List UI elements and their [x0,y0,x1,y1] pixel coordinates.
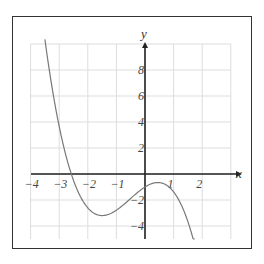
y-axis-label: y [139,26,147,41]
plot-area: x y −4−3−2−112−4−22468 [0,0,264,264]
axes: x y [31,26,242,239]
y-tick-label: 8 [138,63,144,77]
y-tick-label: 4 [138,115,144,129]
y-tick-label: 2 [138,141,144,155]
x-tick-label: −1 [110,177,124,191]
x-tick-label: −2 [82,177,96,191]
x-tick-label: 2 [196,177,202,191]
grid [31,44,231,239]
y-tick-label: −4 [130,219,144,233]
x-axis-label: x [235,166,242,181]
y-axis-arrow-icon [142,42,148,48]
x-tick-label: −3 [53,177,67,191]
y-tick-label: −2 [130,193,144,207]
function-curve [45,39,195,239]
x-tick-label: −4 [25,177,39,191]
y-tick-label: 6 [138,89,144,103]
